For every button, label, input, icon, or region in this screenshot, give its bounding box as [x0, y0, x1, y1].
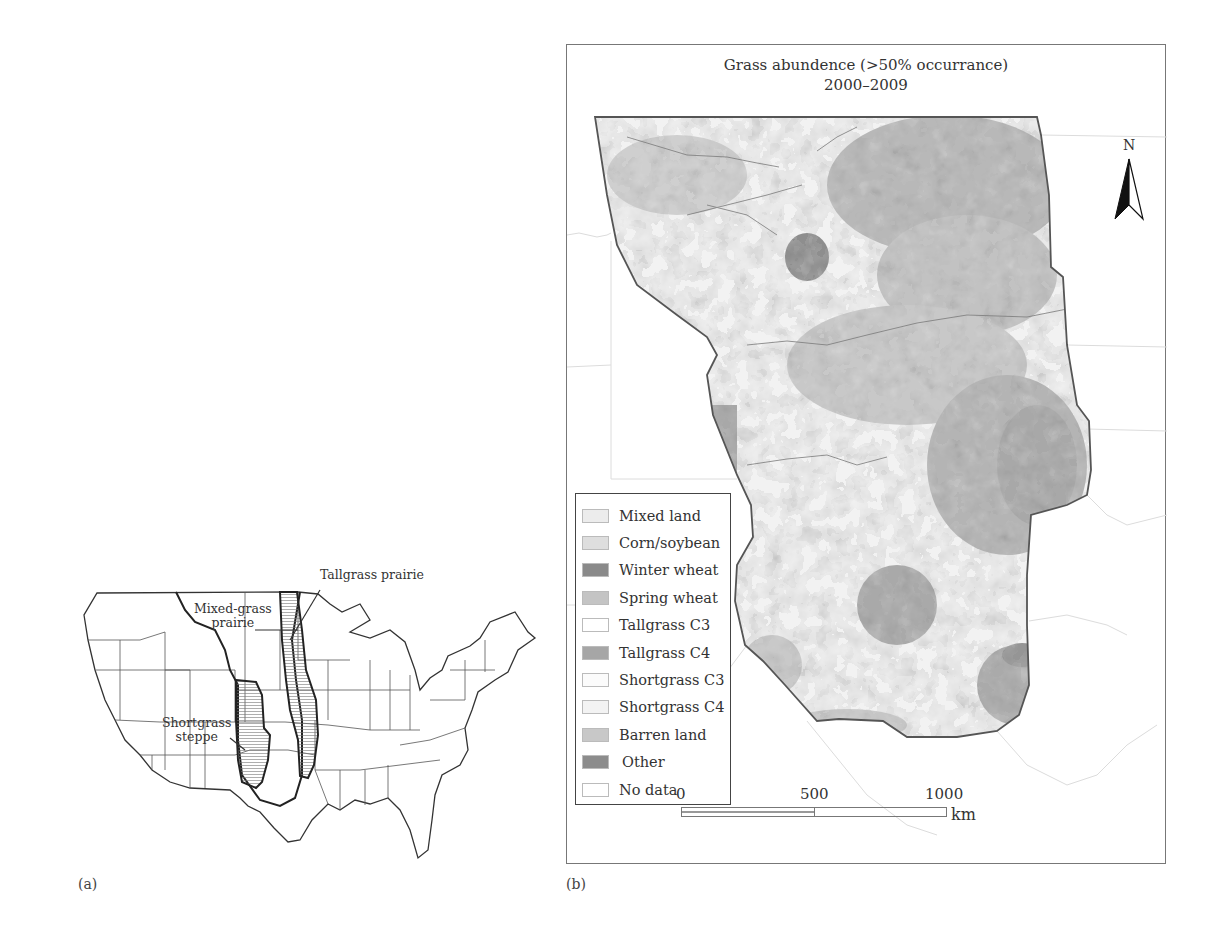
- legend-item-barren-land: Barren land: [582, 721, 730, 748]
- scale-tick-0: 0: [676, 785, 686, 803]
- label-mixed-grass-line2: prairie: [194, 616, 272, 630]
- legend-label: Corn/soybean: [619, 535, 720, 551]
- legend-label: Mixed land: [619, 508, 701, 524]
- scale-unit: km: [951, 805, 976, 824]
- legend-swatch: [582, 755, 609, 769]
- legend-item-shortgrass-c4: Shortgrass C4: [582, 694, 730, 721]
- legend-item-tallgrass-c3: Tallgrass C3: [582, 612, 730, 639]
- map-legend: Mixed land Corn/soybean Winter wheat Spr…: [575, 493, 731, 805]
- legend-item-shortgrass-c3: Shortgrass C3: [582, 666, 730, 693]
- legend-swatch: [582, 536, 609, 550]
- us-states-outline-map: [70, 560, 550, 880]
- legend-swatch: [582, 509, 609, 523]
- legend-swatch: [582, 673, 609, 687]
- legend-item-winter-wheat: Winter wheat: [582, 557, 730, 584]
- legend-item-mixed-land: Mixed land: [582, 502, 730, 529]
- legend-swatch: [582, 591, 609, 605]
- label-shortgrass-line2: steppe: [162, 730, 231, 744]
- legend-swatch: [582, 563, 609, 577]
- legend-label: Winter wheat: [619, 562, 718, 578]
- map-title-line2: 2000–2009: [567, 75, 1165, 95]
- scale-tick-500: 500: [800, 785, 829, 803]
- legend-label: Shortgrass C4: [619, 699, 724, 715]
- legend-label: Other: [622, 754, 665, 770]
- legend-label: Barren land: [619, 727, 707, 743]
- panel-a-letter: (a): [78, 876, 97, 892]
- legend-item-spring-wheat: Spring wheat: [582, 584, 730, 611]
- legend-label: Spring wheat: [619, 590, 718, 606]
- legend-swatch: [582, 646, 609, 660]
- panel-b-grass-abundance-map: Grass abundence (>50% occurrance) 2000–2…: [566, 44, 1166, 864]
- scale-tick-1000: 1000: [925, 785, 963, 803]
- north-label: N: [1109, 137, 1149, 153]
- legend-swatch: [582, 728, 609, 742]
- legend-item-tallgrass-c4: Tallgrass C4: [582, 639, 730, 666]
- scale-segment-0-500: [682, 808, 815, 816]
- map-title-line1: Grass abundence (>50% occurrance): [567, 55, 1165, 75]
- legend-swatch: [582, 618, 609, 632]
- label-shortgrass-steppe: Shortgrass steppe: [162, 716, 231, 744]
- scale-segment-500-1000: [815, 808, 947, 816]
- panel-b-letter: (b): [566, 876, 586, 892]
- north-arrow: N: [1109, 137, 1149, 227]
- scale-bar-graphic: [681, 807, 947, 817]
- legend-label: No data: [619, 782, 677, 798]
- map-title: Grass abundence (>50% occurrance) 2000–2…: [567, 55, 1165, 95]
- legend-label: Tallgrass C4: [619, 645, 710, 661]
- legend-item-corn-soybean: Corn/soybean: [582, 529, 730, 556]
- legend-label: Shortgrass C3: [619, 672, 724, 688]
- label-tallgrass-prairie: Tallgrass prairie: [320, 568, 424, 582]
- panel-a-us-grassland-map: Tallgrass prairie Mixed-grass prairie Sh…: [70, 560, 550, 880]
- legend-swatch: [582, 783, 609, 797]
- legend-label: Tallgrass C3: [619, 617, 710, 633]
- label-shortgrass-line1: Shortgrass: [162, 716, 231, 730]
- label-mixed-grass-prairie: Mixed-grass prairie: [194, 602, 272, 630]
- label-mixed-grass-line1: Mixed-grass: [194, 602, 272, 616]
- legend-swatch: [582, 700, 609, 714]
- scale-bar: 0 500 1000 km: [679, 785, 979, 835]
- legend-item-other: Other: [582, 749, 730, 776]
